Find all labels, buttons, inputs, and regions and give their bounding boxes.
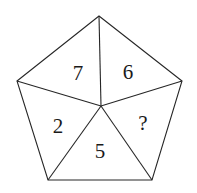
spoke-to-left — [17, 81, 101, 106]
pentagon-figure: 7 6 ? 5 2 — [0, 0, 197, 193]
pentagon-diagram — [0, 0, 197, 193]
sector-label-top-right: 6 — [123, 62, 134, 83]
sector-label-bottom: 5 — [95, 141, 106, 162]
sector-label-right-unknown: ? — [138, 113, 147, 134]
spoke-to-right — [101, 81, 182, 106]
sector-label-top-left: 7 — [73, 63, 84, 84]
sector-label-left: 2 — [53, 116, 64, 137]
spoke-to-top — [99, 16, 101, 106]
